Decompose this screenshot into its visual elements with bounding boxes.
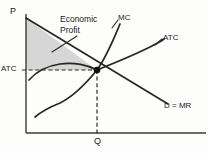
economic-profit-line-2: Profit	[60, 25, 80, 35]
marginal-cost-label: MC	[118, 13, 130, 23]
price-tick-label: ATC	[1, 64, 16, 74]
diagram-canvas	[0, 0, 208, 153]
economic-profit-annotation: Economic Profit	[60, 14, 97, 36]
demand-marginal-revenue-label: D = MR	[164, 101, 191, 111]
equilibrium-point-marker	[94, 67, 101, 74]
quantity-tick-label: Q	[94, 136, 101, 146]
economic-profit-line-1: Economic	[60, 14, 97, 24]
y-axis-label: P	[10, 6, 16, 16]
average-total-cost-label: ATC	[163, 33, 178, 43]
economics-diagram: P ATC Q MC ATC D = MR Economic Profit	[0, 0, 208, 153]
